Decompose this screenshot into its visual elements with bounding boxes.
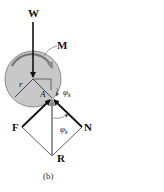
angle-label-upper: φk [63, 88, 71, 98]
angle-subscript: k [68, 92, 71, 98]
angle-subscript: k [65, 129, 68, 135]
resultant-label: R [57, 153, 65, 164]
angle-arc-lower [53, 114, 68, 118]
angle-label-lower: φk [60, 125, 68, 135]
moment-label: M [57, 40, 67, 51]
weight-label: W [28, 8, 39, 19]
diagram-canvas [0, 0, 164, 192]
normal-force-arrow-icon [54, 100, 82, 127]
normal-force-label: N [84, 122, 92, 133]
radius-label: r [19, 80, 23, 89]
contact-point-label: A [40, 90, 46, 99]
free-body-diagram: W M r A φk F N φk R (b) [0, 0, 164, 192]
figure-caption: (b) [43, 172, 54, 181]
friction-force-label: F [12, 122, 19, 133]
